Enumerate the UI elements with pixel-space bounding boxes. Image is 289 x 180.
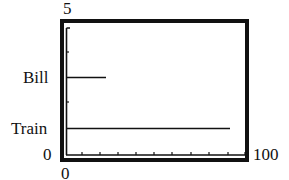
x-min-label: 0 — [61, 165, 70, 180]
plot-frame — [62, 21, 247, 160]
y-min-label: 0 — [43, 146, 52, 163]
x-max-label: 100 — [253, 146, 279, 163]
y-max-label: 5 — [63, 0, 72, 17]
category-label-bill: Bill — [23, 69, 49, 86]
category-label-train: Train — [11, 120, 47, 137]
